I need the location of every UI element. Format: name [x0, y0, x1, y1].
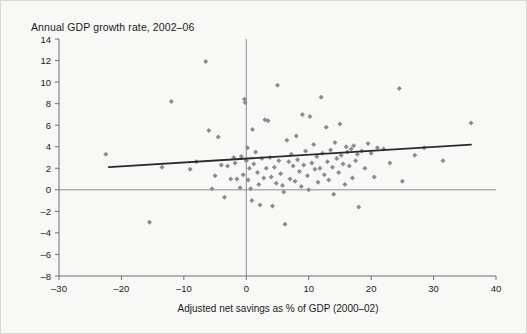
figure-container: Annual GDP growth rate, 2002–06 –30–20–1… [0, 0, 527, 334]
data-point [307, 114, 312, 119]
y-axis-ticks: –8–6–4–202468101214 [40, 34, 59, 282]
data-point [160, 165, 165, 170]
data-point [225, 164, 230, 169]
data-point [387, 160, 392, 165]
data-point [356, 205, 361, 210]
data-point [292, 179, 297, 184]
y-tick-label: 12 [40, 55, 51, 66]
scatter-plot: –30–20–10010203040 –8–6–4–202468101214 A… [1, 1, 527, 334]
y-tick-label: –4 [40, 227, 51, 238]
data-point [169, 99, 174, 104]
data-point [203, 59, 208, 64]
y-tick-label: 10 [40, 77, 51, 88]
data-point [250, 127, 255, 132]
data-point [319, 95, 324, 100]
data-point [372, 174, 377, 179]
data-point [284, 138, 289, 143]
data-point [305, 173, 310, 178]
data-point [322, 172, 327, 177]
data-point [233, 160, 238, 165]
x-axis-ticks: –30–20–10010203040 [51, 276, 501, 294]
data-point [258, 202, 263, 207]
data-point [228, 177, 233, 182]
data-point [188, 167, 193, 172]
y-tick-label: –8 [40, 271, 51, 282]
data-point [344, 144, 349, 149]
y-tick-label: 4 [46, 141, 51, 152]
data-point [326, 178, 331, 183]
data-point [209, 186, 214, 191]
x-tick-label: –10 [176, 283, 192, 294]
data-point [270, 203, 275, 208]
data-point [206, 128, 211, 133]
data-point [294, 133, 299, 138]
data-point [309, 160, 314, 165]
data-point [341, 161, 346, 166]
data-point [400, 179, 405, 184]
data-point [291, 164, 296, 169]
data-point [299, 184, 304, 189]
data-point [245, 145, 250, 150]
data-point [325, 159, 330, 164]
data-point [337, 122, 342, 127]
data-point [311, 142, 316, 147]
data-point [353, 158, 358, 163]
y-tick-label: 0 [46, 184, 51, 195]
x-tick-label: 20 [366, 283, 377, 294]
data-point [213, 173, 218, 178]
y-tick-label: 2 [46, 163, 51, 174]
data-point [255, 170, 260, 175]
data-point [269, 174, 274, 179]
x-tick-label: 30 [428, 283, 439, 294]
data-point [297, 169, 302, 174]
data-point [278, 171, 283, 176]
data-point [301, 163, 306, 168]
data-point [350, 175, 355, 180]
data-point [249, 198, 254, 203]
data-point [331, 192, 336, 197]
y-tick-label: –6 [40, 249, 51, 260]
data-point [219, 163, 224, 168]
data-point [241, 172, 246, 177]
y-tick-label: –2 [40, 206, 51, 217]
x-axis-title: Adjusted net savings as % of GDP (2000–0… [177, 303, 378, 314]
data-point [243, 100, 248, 105]
data-point [234, 177, 239, 182]
x-tick-label: 0 [244, 283, 249, 294]
data-point [275, 83, 280, 88]
data-point [295, 157, 300, 162]
data-point [317, 166, 322, 171]
data-point [253, 150, 258, 155]
data-point [276, 158, 281, 163]
data-point [306, 187, 311, 192]
data-point [248, 186, 253, 191]
data-point [256, 182, 261, 187]
data-point [247, 166, 252, 171]
x-tick-label: –30 [51, 283, 67, 294]
data-point [412, 153, 417, 158]
data-point [261, 175, 266, 180]
data-point [103, 152, 108, 157]
data-point [274, 181, 279, 186]
x-tick-label: –20 [113, 283, 129, 294]
data-point [286, 159, 291, 164]
data-point [469, 121, 474, 126]
data-point [272, 165, 277, 170]
data-point [330, 165, 335, 170]
data-point [282, 222, 287, 227]
data-point [324, 125, 329, 130]
data-point [332, 140, 337, 145]
data-point [300, 112, 305, 117]
data-point [366, 141, 371, 146]
data-points [103, 59, 473, 227]
data-point [147, 220, 152, 225]
data-point [303, 149, 308, 154]
data-point [328, 147, 333, 152]
data-point [264, 166, 269, 171]
data-point [347, 164, 352, 169]
data-point [316, 180, 321, 185]
y-tick-label: 14 [40, 34, 51, 45]
data-point [222, 195, 227, 200]
data-point [342, 182, 347, 187]
data-point [336, 170, 341, 175]
